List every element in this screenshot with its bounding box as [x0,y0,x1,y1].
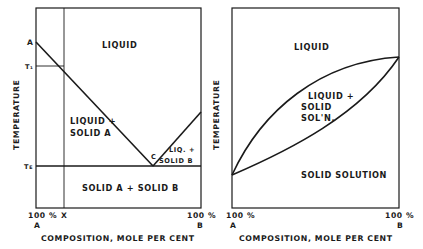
left-x-tick-100b: 100 % [187,211,216,220]
region-liquid-solid-a-line1: LIQUID + [70,116,116,126]
region-liquid-solid-soln-line2: SOLID [301,102,332,112]
eutectic-diagram: A T₁ Tᴇ TEMPERATURE LIQUID LIQUID + SOLI… [12,8,216,243]
liquidus-a-curve [36,42,153,166]
mark-te: Tᴇ [24,163,33,171]
region-liq-solid-b-line1: LIQ. + [169,146,195,154]
region-liquid-solid-soln-line3: SOL'N. [301,113,335,123]
region-liquid-right: LIQUID [294,42,329,52]
left-x-tick-b: B [197,221,203,230]
left-plot-frame [36,8,201,208]
region-solid-solution: SOLID SOLUTION [301,170,387,180]
point-c: C [151,153,156,161]
left-x-axis-label: COMPOSITION, MOLE PER CENT [41,234,195,243]
phase-diagrams: A T₁ Tᴇ TEMPERATURE LIQUID LIQUID + SOLI… [0,0,423,249]
solid-solution-diagram: TEMPERATURE LIQUID LIQUID + SOLID SOL'N.… [212,8,414,243]
left-x-tick-a: A [34,221,40,230]
right-x-tick-100b: 100 % [385,211,414,220]
left-y-axis-label: TEMPERATURE [12,80,21,150]
right-y-axis-label: TEMPERATURE [212,80,221,150]
mark-t1: T₁ [25,63,34,71]
mark-a: A [27,38,33,47]
left-x-tick-x: X [61,211,67,220]
region-liquid-solid-a-line2: SOLID A [70,128,111,138]
region-liq-solid-b-line2: SOLID B [159,157,193,165]
right-x-tick-a: A [230,221,236,230]
left-x-tick-100a: 100 % [28,211,57,220]
right-x-tick-b: B [397,221,403,230]
right-x-axis-label: COMPOSITION, MOLE PER CENT [239,234,393,243]
region-liquid: LIQUID [102,40,137,50]
region-liquid-solid-soln-line1: LIQUID + [308,91,354,101]
right-x-tick-100a: 100 % [226,211,255,220]
region-solid-a-solid-b: SOLID A + SOLID B [82,183,179,193]
